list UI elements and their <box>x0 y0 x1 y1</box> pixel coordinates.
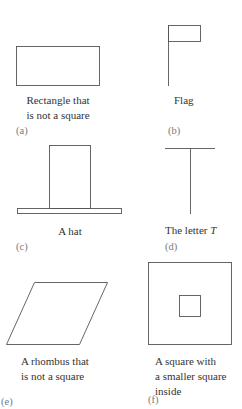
rectangle-shape <box>17 47 100 86</box>
caption-f-line-1: A square with <box>155 354 226 369</box>
caption-a-line-1: Rectangle that <box>16 93 100 108</box>
label-b: (b) <box>168 125 180 136</box>
caption-d: The letter T <box>165 223 216 238</box>
caption-a: Rectangle that is not a square <box>16 93 100 123</box>
caption-e: A rhombus that is not a square <box>21 354 89 384</box>
caption-c-line-1: A hat <box>40 224 100 239</box>
nested-squares-shape <box>149 263 232 345</box>
caption-b: Flag <box>174 93 194 108</box>
figures-canvas <box>0 0 242 409</box>
caption-f-line-3: inside <box>155 384 226 399</box>
caption-e-line-1: A rhombus that <box>21 354 89 369</box>
caption-d-italic: T <box>210 224 216 236</box>
caption-f: A square with a smaller square inside <box>155 354 226 399</box>
caption-a-line-2: is not a square <box>16 108 100 123</box>
caption-f-line-2: a smaller square <box>155 369 226 384</box>
label-e: (e) <box>1 396 13 407</box>
flag-shape <box>169 25 201 86</box>
rhombus-shape <box>7 283 108 345</box>
label-a: (a) <box>16 125 28 136</box>
letter-t-shape <box>165 149 215 215</box>
label-f: (f) <box>148 394 159 405</box>
caption-d-prefix: The letter <box>165 224 210 236</box>
label-c: (c) <box>16 241 28 252</box>
caption-c: A hat <box>40 224 100 239</box>
caption-b-line-1: Flag <box>174 93 194 108</box>
caption-e-line-2: is not a square <box>21 369 89 384</box>
label-d: (d) <box>165 241 177 252</box>
hat-shape <box>18 146 122 214</box>
